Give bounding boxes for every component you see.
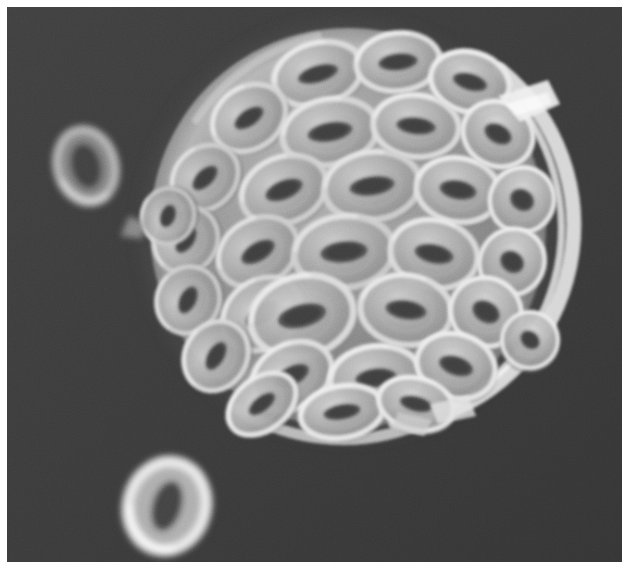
sem-grain-overlay-soft bbox=[7, 7, 622, 562]
micrograph-page bbox=[0, 0, 626, 577]
sem-micrograph-image bbox=[7, 7, 622, 562]
sem-vector-canvas bbox=[7, 7, 622, 562]
